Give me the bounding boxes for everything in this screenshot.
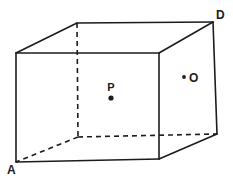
vertex-label-A: A	[7, 163, 16, 177]
edge-front_bottom_left--front_bottom_right	[16, 159, 159, 162]
point-label-P: P	[107, 81, 114, 93]
hidden-edge-back_bottom_left--front_bottom_left	[16, 137, 78, 162]
edge-back_top_right--back_bottom_right	[213, 22, 217, 134]
edge-back_bottom_right--front_bottom_right	[159, 134, 217, 159]
point-dot-P	[108, 95, 113, 100]
edge-back_top_right--front_top_right	[159, 22, 213, 53]
vertex-label-D: D	[216, 8, 225, 22]
point-label-O: O	[189, 71, 198, 85]
edge-front_top_left--back_top_left	[16, 23, 77, 53]
hidden-edge-back_top_left--back_bottom_left	[77, 23, 78, 137]
point-dot-O	[182, 75, 186, 79]
edge-back_top_left--back_top_right	[77, 22, 213, 23]
hidden-edge-back_bottom_left--back_bottom_right	[78, 134, 217, 137]
geometry-figure: PODA	[0, 0, 233, 179]
cuboid-diagram: PODA	[0, 0, 233, 179]
